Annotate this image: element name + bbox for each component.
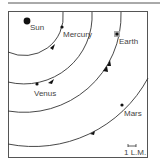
venus-label: Venus [34, 89, 56, 98]
scale-label: 1 L.M. [124, 148, 146, 157]
mars-dot-icon [120, 103, 123, 106]
earth-label: Earth [119, 37, 138, 46]
mars-label: Mars [124, 109, 142, 118]
venus-orbit-arrow-icon [107, 60, 111, 66]
earth-orbit [8, 12, 121, 112]
earth-dot-icon [115, 32, 118, 35]
mercury-orbit [8, 12, 63, 56]
venus-dot-icon [35, 82, 38, 85]
mercury-label: Mercury [63, 30, 92, 39]
sun-label: Sun [30, 23, 44, 32]
earth-arrow-icon [103, 66, 108, 72]
mercury-dot-icon [60, 25, 63, 28]
orbit-diagram: Sun Mercury Venus Earth Mars 1 L.M. [0, 0, 160, 167]
